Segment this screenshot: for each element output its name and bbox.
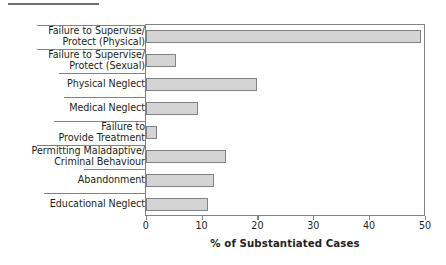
bar-row: Educational Neglect (0, 192, 446, 216)
x-tick-label: 50 (405, 220, 445, 231)
bar-row: Physical Neglect (0, 72, 446, 96)
x-tick-label: 40 (349, 220, 389, 231)
x-axis-label: % of Substantiated Cases (145, 238, 425, 249)
bar-category-label: Failure toProvide Treatment (0, 121, 145, 144)
bar-category-label: Failure to Supervise/Protect (Physical) (0, 25, 145, 48)
x-tick-label: 30 (293, 220, 333, 231)
bar-row: Failure toProvide Treatment (0, 120, 446, 144)
bar-category-label-line1: Educational Neglect (50, 198, 145, 209)
bar-category-label-line2: Criminal Behaviour (0, 156, 145, 167)
bar-chart-figure: Failure to Supervise/Protect (Physical)F… (0, 0, 446, 265)
bar-category-label-line1: Abandonment (78, 174, 145, 185)
bar-category-label-line1: Permitting Maladaptive/ (32, 145, 145, 156)
bar-category-label: Permitting Maladaptive/Criminal Behaviou… (0, 145, 145, 168)
bar-row: Medical Neglect (0, 96, 446, 120)
bar-rows: Failure to Supervise/Protect (Physical)F… (0, 24, 446, 216)
bar-category-label-line1: Medical Neglect (69, 102, 145, 113)
bar-category-label-line1: Physical Neglect (67, 78, 145, 89)
bar-row: Permitting Maladaptive/Criminal Behaviou… (0, 144, 446, 168)
bar-category-label-line1: Failure to (101, 121, 145, 132)
bar-category-label-line1: Failure to Supervise/ (48, 25, 145, 36)
bar-category-label: Failure to Supervise/Protect (Sexual) (0, 49, 145, 72)
bar-category-label-line2: Protect (Sexual) (0, 60, 145, 71)
bar-category-label-line2: Provide Treatment (0, 132, 145, 143)
bar-category-label: Abandonment (0, 174, 145, 185)
bar-category-label-line1: Failure to Supervise/ (48, 49, 145, 60)
caption-rule (8, 3, 99, 5)
bar-row: Failure to Supervise/Protect (Sexual) (0, 48, 446, 72)
bar-row: Failure to Supervise/Protect (Physical) (0, 24, 446, 48)
bar-category-label-line2: Protect (Physical) (0, 36, 145, 47)
x-tick-label: 10 (182, 220, 222, 231)
x-tick-label: 20 (237, 220, 277, 231)
x-axis: % of Substantiated Cases 01020304050 (0, 216, 446, 265)
bar-category-label: Educational Neglect (0, 198, 145, 209)
x-tick-label: 0 (126, 220, 166, 231)
bar-row: Abandonment (0, 168, 446, 192)
bar-category-label: Medical Neglect (0, 102, 145, 113)
bar-category-label: Physical Neglect (0, 78, 145, 89)
